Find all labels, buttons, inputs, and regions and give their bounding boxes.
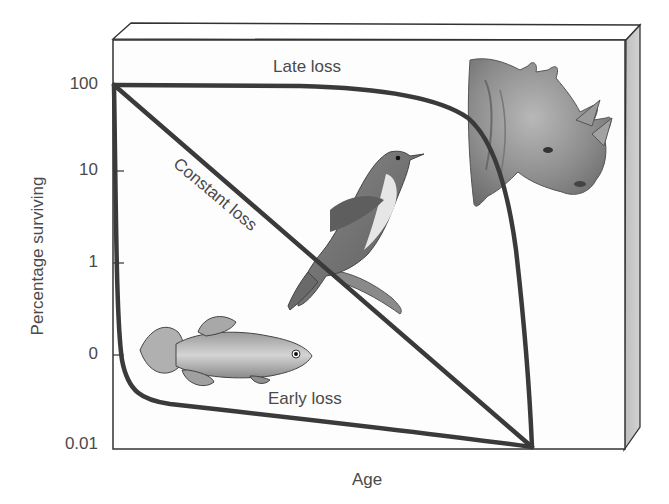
label-late-loss: Late loss [273, 57, 341, 77]
y-tick-label-0: 0 [38, 344, 98, 364]
survivorship-chart: 100 10 1 0 0.01 Percentage surviving Age… [0, 0, 669, 504]
label-early-loss: Early loss [268, 389, 342, 409]
y-tick-label-100: 100 [38, 74, 98, 94]
y-tick-label-0-01: 0.01 [38, 434, 98, 454]
box-side-face [624, 25, 640, 450]
x-axis-title: Age [352, 470, 382, 490]
y-axis-title: Percentage surviving [28, 176, 48, 336]
box-top-face [113, 23, 640, 40]
